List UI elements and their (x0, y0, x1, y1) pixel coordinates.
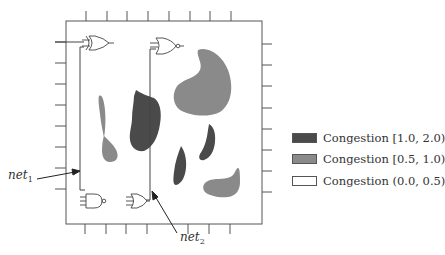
legend: Congestion [1.0, 2.0) Congestion [0.5, 1… (292, 127, 445, 192)
legend-swatch-medium (292, 154, 317, 164)
legend-swatch-low (292, 176, 317, 186)
legend-item-high: Congestion [1.0, 2.0) (292, 127, 445, 149)
net2-label: net2 (180, 230, 205, 246)
left-ticks (55, 42, 66, 189)
legend-item-medium: Congestion [0.5, 1.0) (292, 149, 445, 171)
bottom-ticks (85, 224, 230, 234)
right-ticks (262, 44, 272, 192)
net1-label: net1 (8, 168, 33, 184)
legend-item-low: Congestion (0.0, 0.5) (292, 170, 445, 192)
legend-swatch-high (292, 133, 317, 143)
top-ticks (86, 11, 231, 21)
legend-label-low: Congestion (0.0, 0.5) (323, 174, 445, 188)
legend-label-high: Congestion [1.0, 2.0) (323, 131, 445, 145)
legend-label-medium: Congestion [0.5, 1.0) (323, 152, 445, 166)
